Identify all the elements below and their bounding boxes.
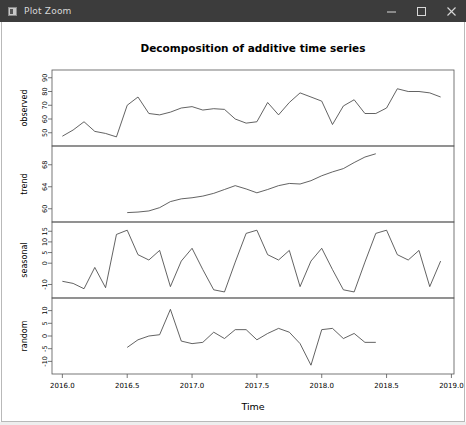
minimize-icon[interactable] (376, 0, 406, 22)
panel-observed: 5060708090observed (20, 70, 455, 146)
panel-trend: 606468trend (20, 146, 455, 222)
y-tick-label: 68 (41, 161, 49, 169)
y-tick-label: -5 (41, 345, 49, 351)
panel-frame (52, 146, 454, 222)
panel-random: -10-50510random2016.02016.52017.02017.52… (20, 298, 464, 390)
close-icon[interactable] (436, 0, 466, 22)
y-tick-label: 60 (41, 115, 49, 123)
x-tick-label: 2016.0 (50, 382, 75, 390)
y-tick-label: 0 (41, 261, 49, 265)
panel-frame (52, 70, 454, 146)
y-tick-label: -10 (41, 279, 49, 290)
series-line (127, 154, 376, 213)
y-tick-label: 10 (41, 238, 49, 246)
y-tick-label: 90 (41, 74, 49, 82)
panel-axis-label: random (20, 320, 29, 351)
plot-zoom-window: Plot Zoom Decomposition of additive time… (0, 0, 466, 425)
x-tick-label: 2018.5 (374, 382, 399, 390)
panel-axis-label: observed (20, 89, 29, 126)
y-tick-label: 15 (41, 227, 49, 235)
panel-axis-label: seasonal (20, 242, 29, 277)
x-tick-label: 2016.5 (115, 382, 140, 390)
y-tick-label: 5 (41, 250, 49, 254)
decomposition-chart: Decomposition of additive time series506… (2, 22, 464, 420)
maximize-icon[interactable] (406, 0, 436, 22)
series-line (62, 230, 440, 292)
series-line (127, 309, 376, 365)
y-tick-label: 70 (41, 101, 49, 109)
panel-seasonal: -10051015seasonal (20, 222, 455, 298)
chart-title: Decomposition of additive time series (140, 42, 365, 54)
panel-frame (52, 222, 454, 298)
window-title: Plot Zoom (24, 6, 72, 16)
y-tick-label: 10 (41, 306, 49, 314)
x-axis-label: Time (240, 401, 264, 412)
y-tick-label: 0 (41, 334, 49, 338)
y-tick-label: 5 (41, 321, 49, 325)
x-tick-label: 2018.0 (309, 382, 334, 390)
x-tick-label: 2017.5 (245, 382, 270, 390)
y-tick-label: 50 (41, 129, 49, 137)
y-tick-label: 64 (41, 183, 49, 191)
x-tick-label: 2017.0 (180, 382, 205, 390)
panel-axis-label: trend (20, 173, 29, 194)
series-line (62, 89, 440, 137)
y-tick-label: -10 (41, 356, 49, 367)
y-tick-label: 80 (41, 87, 49, 95)
plot-window-icon (8, 7, 17, 16)
y-tick-label: 60 (41, 205, 49, 213)
plot-canvas: Decomposition of additive time series506… (1, 22, 465, 422)
x-tick-label: 2019.0 (439, 382, 464, 390)
window-titlebar[interactable]: Plot Zoom (0, 0, 466, 22)
